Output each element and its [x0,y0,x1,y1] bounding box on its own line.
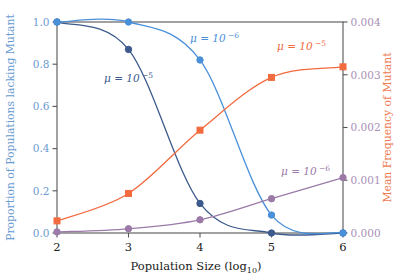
line-chart: 234560.00.20.40.60.81.00.0000.0010.0020.… [0,0,400,278]
annotation-label-proportion-lacking-mu-1e-6: μ = 10 [190,32,226,44]
y-tick-left-label-0.6: 0.6 [33,100,50,112]
series-annotation-mean-frequency-mu-1e-5: μ = 10−5 [277,39,326,53]
data-point-proportion-lacking-mu-1e-6-6 [340,230,346,236]
series-annotation-proportion-lacking-mu-1e-6: μ = 10−6 [190,31,239,45]
annotation-exponent-mean-frequency-mu-1e-5: −5 [315,39,326,48]
data-point-mean-frequency-mu-1e-6-3 [125,226,131,232]
data-point-mean-frequency-mu-1e-6-4 [197,217,203,223]
annotation-exponent-proportion-lacking-mu-1e-6: −6 [228,31,239,40]
data-point-proportion-lacking-mu-1e-5-3 [125,46,131,52]
x-tick-label-3: 3 [125,240,132,254]
data-point-proportion-lacking-mu-1e-6-5 [268,212,274,218]
data-point-proportion-lacking-mu-1e-6-3 [125,19,131,25]
x-tick-label-2: 2 [53,240,60,254]
data-point-mean-frequency-mu-1e-6-2 [54,229,60,235]
y-tick-left-label-0.0: 0.0 [33,227,50,239]
data-point-mean-frequency-mu-1e-5-2 [54,218,60,224]
y-tick-right-label-0.003: 0.003 [351,69,381,81]
data-point-proportion-lacking-mu-1e-6-2 [54,19,60,25]
annotation-label-mean-frequency-mu-1e-5: μ = 10 [277,40,313,52]
y-tick-right-label-0.001: 0.001 [351,174,381,186]
data-point-mean-frequency-mu-1e-5-4 [197,127,203,133]
y-axis-label-right: Mean Frequency of Mutant [381,52,394,203]
data-point-proportion-lacking-mu-1e-5-4 [197,200,203,206]
annotation-exponent-mean-frequency-mu-1e-6: −6 [319,164,330,173]
data-point-mean-frequency-mu-1e-5-3 [126,190,132,196]
x-tick-label-6: 6 [339,240,346,254]
y-tick-right-label-0.004: 0.004 [351,16,381,28]
y-tick-left-label-0.8: 0.8 [33,58,50,70]
x-axis-label: Population Size (log10) [131,259,262,275]
data-point-mean-frequency-mu-1e-5-6 [340,64,346,70]
y-tick-left-label-0.4: 0.4 [33,142,50,154]
data-point-mean-frequency-mu-1e-6-5 [268,196,274,202]
y-tick-right-label-0.000: 0.000 [351,227,381,239]
x-axis-label-text: Population Size (log10) [131,259,262,275]
data-point-mean-frequency-mu-1e-6-6 [340,174,346,180]
data-point-proportion-lacking-mu-1e-5-5 [268,230,274,236]
y-tick-left-label-0.2: 0.2 [33,185,50,197]
y-tick-left-label-1.0: 1.0 [33,16,50,28]
y-tick-right-label-0.002: 0.002 [351,121,381,133]
series-line-mean-frequency-mu-1e-5 [57,67,343,221]
x-tick-label-5: 5 [268,240,275,254]
annotation-label-mean-frequency-mu-1e-6: μ = 10 [281,165,317,177]
data-point-proportion-lacking-mu-1e-6-4 [197,57,203,63]
annotation-exponent-proportion-lacking-mu-1e-5: −5 [142,71,153,80]
data-point-mean-frequency-mu-1e-5-5 [269,74,275,80]
annotation-label-proportion-lacking-mu-1e-5: μ = 10 [104,72,140,84]
y-axis-label-left: Proportion of Populations lacking Mutant [4,13,17,240]
x-tick-label-4: 4 [196,240,203,254]
series-annotation-mean-frequency-mu-1e-6: μ = 10−6 [281,164,330,178]
chart-figure: 234560.00.20.40.60.81.00.0000.0010.0020.… [0,0,400,278]
